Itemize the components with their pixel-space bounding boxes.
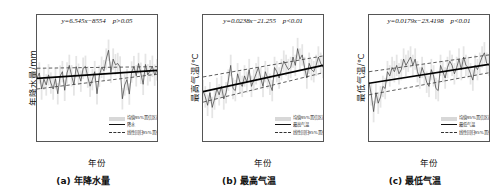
- legend-label: 线性回归95%置信区间: [127, 131, 158, 138]
- chart-panel-1: 年降水量/mm020040060080019701980199020002010…: [0, 0, 166, 194]
- legend-item-mean-ci: 均值95%置信区间: [109, 115, 158, 122]
- y-tick-mark: [368, 36, 369, 37]
- x-tick-mark: [432, 141, 433, 142]
- chart-legend: 均值95%置信区间最高气温线性回归95%置信区间: [275, 115, 324, 138]
- y-tick-mark: [202, 100, 203, 101]
- x-tick-mark: [455, 141, 456, 142]
- chart-panel-3: 最低气温/℃910111213141519701980199020002010均…: [332, 0, 498, 194]
- legend-label: 线性回归95%置信区间: [459, 131, 490, 138]
- x-tick-mark: [313, 141, 314, 142]
- p-value-text: p<0.01: [451, 17, 471, 25]
- x-tick-mark: [385, 141, 386, 142]
- legend-dashed-swatch: [275, 132, 291, 138]
- x-tick-label: 2000: [282, 141, 297, 142]
- legend-item-mean-ci: 均值95%置信区间: [275, 115, 324, 122]
- legend-dashed-swatch: [109, 132, 125, 138]
- legend-item-series: 降水: [109, 122, 158, 130]
- legend-item-mean-ci: 均值95%置信区间: [441, 115, 490, 122]
- legend-item-series: 最高气温: [275, 122, 324, 130]
- legend-band-swatch: [275, 117, 291, 121]
- y-tick-label: 9: [368, 138, 369, 142]
- equation-text: y=0.0238x−21.255: [223, 17, 276, 25]
- legend-solid-swatch: [109, 124, 125, 130]
- climate-trend-figure: 年降水量/mm020040060080019701980199020002010…: [0, 0, 498, 194]
- x-tick-label: 2010: [140, 141, 155, 142]
- x-tick-label: 2010: [472, 141, 487, 142]
- x-tick-mark: [123, 141, 124, 142]
- y-tick-mark: [202, 79, 203, 80]
- x-tick-label: 1970: [378, 141, 393, 142]
- chart-legend: 均值95%置信区间降水线性回归95%置信区间: [109, 115, 158, 138]
- x-tick-label: 1990: [259, 141, 274, 142]
- x-tick-mark: [408, 141, 409, 142]
- x-axis-label: 年份: [368, 156, 490, 168]
- x-tick-label: 1980: [401, 141, 416, 142]
- y-axis-label: 最低气温/℃: [354, 54, 366, 102]
- y-tick-label: 0: [36, 138, 37, 142]
- plot-area: 020040060080019701980199020002010均值95%置信…: [36, 14, 158, 142]
- panel-caption: (b) 最高气温: [166, 174, 332, 187]
- x-tick-mark: [76, 141, 77, 142]
- x-tick-label: 1990: [93, 141, 108, 142]
- x-tick-mark: [219, 141, 220, 142]
- x-tick-mark: [289, 141, 290, 142]
- p-value-text: p<0.01: [283, 17, 303, 25]
- legend-band-swatch: [441, 117, 457, 121]
- x-tick-mark: [100, 141, 101, 142]
- plot-area: 2324252627282919701980199020002010均值95%置…: [202, 14, 324, 142]
- panel-caption: (a) 年降水量: [0, 174, 166, 187]
- y-tick-mark: [202, 57, 203, 58]
- y-tick-mark: [36, 111, 37, 112]
- chart-legend: 均值95%置信区间最低气温线性回归95%置信区间: [441, 115, 490, 138]
- legend-label: 最高气温: [293, 123, 308, 130]
- legend-dashed-swatch: [441, 132, 457, 138]
- plot-area: 910111213141519701980199020002010均值95%置信…: [368, 14, 490, 142]
- regression-equation: y=0.0238x−21.255p<0.01: [202, 17, 324, 25]
- legend-solid-swatch: [275, 124, 291, 130]
- y-tick-mark: [36, 79, 37, 80]
- x-tick-label: 1970: [46, 141, 61, 142]
- legend-label: 均值95%置信区间: [127, 115, 158, 122]
- legend-solid-swatch: [441, 124, 457, 130]
- legend-label: 最低气温: [459, 123, 474, 130]
- legend-label: 线性回归95%置信区间: [293, 131, 324, 138]
- x-tick-label: 1970: [212, 141, 227, 142]
- y-tick-mark: [368, 57, 369, 58]
- x-tick-label: 1990: [425, 141, 440, 142]
- equation-text: y=6.545x−8554: [62, 17, 106, 25]
- legend-item-regression-ci: 线性回归95%置信区间: [275, 130, 324, 138]
- y-axis-label: 最高气温/℃: [188, 54, 200, 102]
- y-tick-mark: [368, 100, 369, 101]
- legend-label: 降水: [127, 123, 135, 130]
- x-tick-mark: [53, 141, 54, 142]
- y-tick-mark: [368, 121, 369, 122]
- x-tick-label: 2000: [448, 141, 463, 142]
- y-tick-mark: [368, 79, 369, 80]
- mean-ci-band: [369, 42, 489, 122]
- x-tick-label: 1980: [69, 141, 84, 142]
- panel-caption: (c) 最低气温: [332, 174, 498, 187]
- y-tick-mark: [368, 15, 369, 16]
- legend-item-series: 最低气温: [441, 122, 490, 130]
- y-tick-label: 23: [202, 138, 203, 142]
- legend-item-regression-ci: 线性回归95%置信区间: [441, 130, 490, 138]
- x-tick-mark: [266, 141, 267, 142]
- y-tick-mark: [202, 121, 203, 122]
- x-tick-mark: [242, 141, 243, 142]
- y-tick-mark: [36, 15, 37, 16]
- p-value-text: p>0.05: [113, 17, 133, 25]
- legend-label: 均值95%置信区间: [459, 115, 490, 122]
- equation-text: y=0.0179x−23.4198: [388, 17, 444, 25]
- x-tick-label: 2000: [116, 141, 131, 142]
- regression-equation: y=6.545x−8554p>0.05: [36, 17, 158, 25]
- x-tick-label: 2010: [306, 141, 321, 142]
- y-tick-mark: [36, 47, 37, 48]
- y-tick-mark: [202, 36, 203, 37]
- regression-equation: y=0.0179x−23.4198p<0.01: [368, 17, 490, 25]
- y-tick-mark: [202, 15, 203, 16]
- legend-item-regression-ci: 线性回归95%置信区间: [109, 130, 158, 138]
- x-tick-mark: [479, 141, 480, 142]
- x-axis-label: 年份: [36, 156, 158, 168]
- legend-label: 均值95%置信区间: [293, 115, 324, 122]
- chart-panel-2: 最高气温/℃2324252627282919701980199020002010…: [166, 0, 332, 194]
